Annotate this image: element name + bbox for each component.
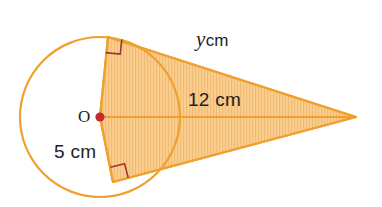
label-radius: 5 cm	[54, 142, 96, 161]
label-tangent-length: ycm	[196, 29, 228, 50]
label-tangent-unit: cm	[206, 31, 228, 50]
label-center-to-apex-distance: 12 cm	[188, 90, 241, 109]
label-tangent-variable: y	[196, 27, 206, 51]
geometry-diagram-canvas: ycm 12 cm 5 cm O	[0, 0, 382, 207]
center-point-dot	[95, 112, 104, 121]
label-center-point: O	[78, 108, 90, 125]
